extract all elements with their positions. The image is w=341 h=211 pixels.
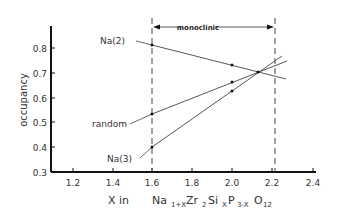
y-tick-labels: 0.8 0.7 0.6 0.5 0.4 0.3 [33, 44, 48, 178]
svg-text:O: O [254, 194, 263, 207]
label-na3: Na(3) [107, 154, 132, 164]
svg-text:2.2: 2.2 [265, 178, 279, 188]
svg-text:1.6: 1.6 [145, 178, 160, 188]
svg-text:Zr: Zr [186, 194, 199, 207]
svg-text:0.8: 0.8 [33, 44, 48, 54]
series-na3: Na(3) [107, 56, 282, 164]
svg-text:2: 2 [202, 201, 206, 209]
svg-text:3-X: 3-X [237, 201, 249, 209]
occupancy-chart: 0.8 0.7 0.6 0.5 0.4 0.3 1.2 1.4 1.6 1.8 … [0, 0, 341, 211]
x-tick-labels: 1.2 1.4 1.6 1.8 2.0 2.2 2.4 [66, 178, 321, 188]
svg-text:Na: Na [152, 194, 167, 207]
x-axis-label: X in Na 1+X Zr 2 Si X P 3-X O 12 [108, 194, 272, 209]
svg-text:P: P [228, 194, 235, 207]
arrow-left-icon [153, 25, 160, 30]
svg-text:X: X [222, 201, 227, 209]
svg-text:2.4: 2.4 [306, 178, 321, 188]
svg-text:0.3: 0.3 [33, 168, 47, 178]
svg-text:0.7: 0.7 [33, 69, 47, 79]
label-random: random [92, 119, 127, 129]
svg-text:Si: Si [208, 194, 218, 207]
svg-text:0.4: 0.4 [33, 143, 48, 153]
arrow-right-icon [267, 25, 274, 30]
svg-text:1.4: 1.4 [106, 178, 121, 188]
y-axis-label: occupancy [18, 73, 29, 127]
svg-text:1.2: 1.2 [66, 178, 80, 188]
svg-text:1+X: 1+X [171, 201, 186, 209]
svg-text:12: 12 [263, 201, 272, 209]
label-na2: Na(2) [100, 36, 125, 46]
svg-text:X in: X in [108, 194, 129, 207]
svg-text:2.0: 2.0 [225, 178, 240, 188]
monoclinic-label: monoclinic [177, 24, 219, 32]
monoclinic-region: monoclinic [152, 18, 275, 172]
svg-text:1.8: 1.8 [185, 178, 200, 188]
svg-text:0.5: 0.5 [33, 118, 47, 128]
svg-text:0.6: 0.6 [33, 94, 48, 104]
